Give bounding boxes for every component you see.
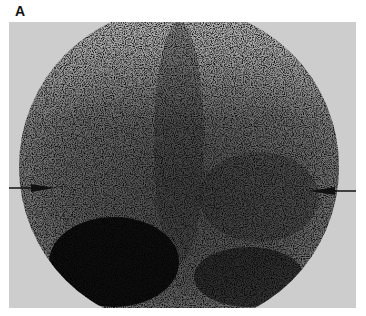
arrows-layer [9, 22, 356, 308]
left-arrow-icon [9, 184, 55, 192]
scintigraphy-image [9, 22, 356, 308]
panel-label: A [15, 3, 25, 19]
right-arrow-icon [309, 187, 356, 195]
